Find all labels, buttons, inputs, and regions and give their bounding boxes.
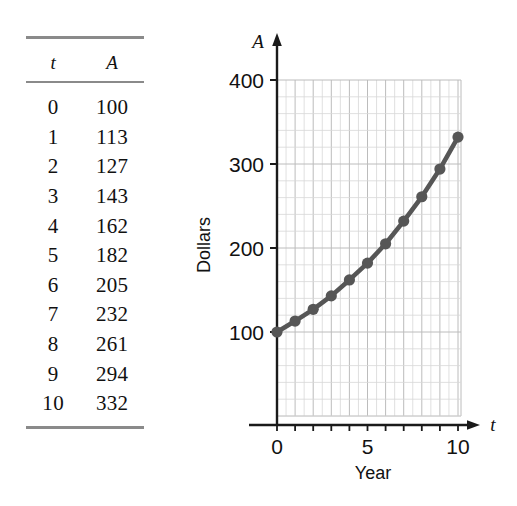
x-tick-label: 10 [446,435,469,458]
table-row: 1113 [26,123,144,153]
table-row: 5182 [26,241,144,271]
cell-t: 1 [26,123,80,153]
cell-t: 4 [26,211,80,241]
data-point [290,315,301,326]
cell-a: 232 [80,300,144,330]
cell-a: 205 [80,271,144,301]
data-point [362,258,373,269]
x-tick-label: 5 [362,435,374,458]
table-row: 0100 [26,93,144,123]
y-tick-label: 400 [229,69,264,92]
data-table: t A 010011132127314341625182620572328261… [26,36,144,429]
y-axis-title: Dollars [194,217,214,273]
cell-a: 261 [80,330,144,360]
y-tick-label: 200 [229,237,264,260]
x-axis-title: Year [355,463,391,483]
cell-a: 182 [80,241,144,271]
data-point [308,304,319,315]
x-tick-labels: 0510 [271,435,470,458]
table-body-spacer [26,83,144,93]
table-bottom-spacer [26,419,144,426]
data-point [416,191,427,202]
cell-t: 7 [26,300,80,330]
table-header-grid: t A [26,45,144,81]
table-row: 7232 [26,300,144,330]
cell-a: 162 [80,211,144,241]
data-point [344,274,355,285]
table-row: 4162 [26,211,144,241]
cell-t: 9 [26,359,80,389]
chart-panel: A t 100200300400 0510 Dollars Year [190,20,517,506]
y-tick-label: 100 [229,321,264,344]
cell-a: 127 [80,152,144,182]
cell-a: 143 [80,182,144,212]
cell-t: 3 [26,182,80,212]
cell-a: 294 [80,359,144,389]
table-row: 6205 [26,271,144,301]
y-axis-arrowhead [272,33,282,46]
cell-t: 10 [26,389,80,419]
cell-t: 5 [26,241,80,271]
table-row: 10332 [26,389,144,419]
cell-t: 6 [26,271,80,301]
y-tick-labels: 100200300400 [229,69,264,344]
cell-t: 2 [26,152,80,182]
cell-a: 100 [80,93,144,123]
y-tick-label: 300 [229,153,264,176]
data-point [271,326,282,337]
table-row: 9294 [26,359,144,389]
table-row: 8261 [26,330,144,360]
line-chart: A t 100200300400 0510 Dollars Year [190,20,517,506]
column-header-t: t [26,45,80,81]
grid-minor [277,80,461,416]
data-point [326,290,337,301]
data-point [452,132,463,143]
data-point [380,238,391,249]
data-point [434,163,445,174]
table-header-row: t A [26,45,144,81]
x-axis-arrowhead [467,420,480,430]
table-bottom-rule [26,426,144,429]
data-point [398,216,409,227]
x-axis-symbol-label: t [490,414,496,435]
figure-root: t A 010011132127314341625182620572328261… [0,0,517,506]
cell-a: 113 [80,123,144,153]
y-axis-symbol-label: A [250,31,264,52]
cell-t: 8 [26,330,80,360]
table-row: 3143 [26,182,144,212]
cell-t: 0 [26,93,80,123]
table-row: 2127 [26,152,144,182]
table-body-grid: 0100111321273143416251826205723282619294… [26,93,144,419]
column-header-a: A [80,45,144,81]
cell-a: 332 [80,389,144,419]
x-tick-label: 0 [271,435,283,458]
